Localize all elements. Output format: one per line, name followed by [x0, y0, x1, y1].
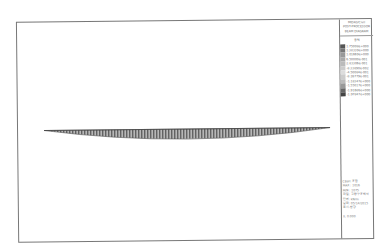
legend-title-line: BEAM DIAGRAM	[340, 29, 373, 34]
viewport-frame: MIDAS/Civil POST-PROCESSOR BEAM DIAGRAM …	[16, 18, 374, 243]
legend-header: MIDAS/Civil POST-PROCESSOR BEAM DIAGRAM	[340, 19, 373, 37]
legend-value: -1.97847e+000	[347, 92, 371, 97]
legend-rows: 1.75008e+000 1.38339e+000 1.01669e+000 6…	[340, 44, 374, 97]
color-swatch	[341, 92, 346, 96]
beam-diagram	[42, 123, 332, 156]
legend-panel: MIDAS/Civil POST-PROCESSOR BEAM DIAGRAM …	[340, 19, 374, 97]
legend-row: -1.97847e+000	[341, 92, 374, 97]
legend-unit: 응력	[340, 38, 373, 43]
page: MIDAS/Civil POST-PROCESSOR BEAM DIAGRAM …	[0, 0, 384, 250]
info-panel: CBall: 조합 MAX : 1016 MIN : 1075 파일: 교량구조…	[343, 179, 375, 219]
info-line: X: 0.000	[343, 214, 375, 219]
